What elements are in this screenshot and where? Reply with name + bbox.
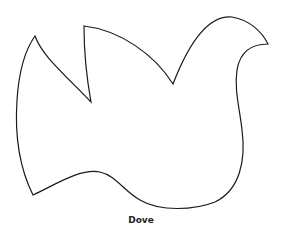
figure-caption: Dove [0, 215, 282, 225]
dove-outline [16, 17, 268, 209]
dove-outline-icon [0, 0, 282, 241]
